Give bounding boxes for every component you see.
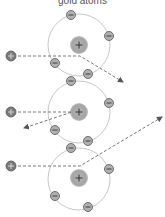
- electron: [67, 77, 76, 86]
- rutherford-scattering-diagram: [0, 0, 165, 217]
- nucleus: [70, 36, 88, 54]
- alpha-particle-3: [6, 161, 16, 171]
- gold-atom-3: [48, 144, 114, 212]
- electron: [67, 11, 76, 20]
- gold-atom-1: [48, 11, 114, 79]
- alpha-particle-1: [6, 51, 16, 61]
- electron: [105, 99, 114, 108]
- nucleus: [70, 169, 88, 187]
- gold-atom-2: [48, 77, 114, 146]
- nucleus: [70, 103, 88, 121]
- electron: [51, 59, 60, 68]
- electron: [67, 144, 76, 153]
- electron: [84, 137, 93, 146]
- alpha-trajectory-2: [18, 112, 72, 128]
- electron: [105, 32, 114, 41]
- electron: [84, 203, 93, 212]
- electron: [84, 70, 93, 79]
- electron: [51, 192, 60, 201]
- electron: [105, 165, 114, 174]
- alpha-particle-2: [6, 107, 16, 117]
- electron: [51, 126, 60, 135]
